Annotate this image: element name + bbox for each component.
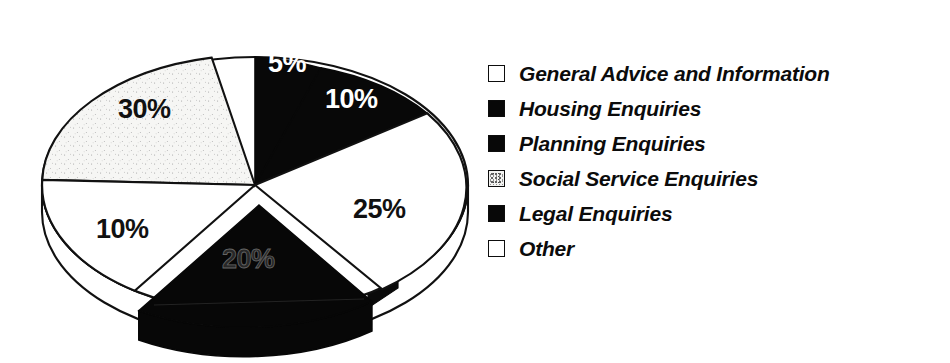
legend-item-label: Social Service Enquiries	[519, 167, 758, 191]
legend-item-label: Other	[519, 237, 574, 261]
slice-label-legal: 20%	[222, 244, 275, 274]
slice-label-other: 10%	[96, 214, 149, 244]
legend-item-social-service[interactable]: Social Service Enquiries	[488, 161, 948, 196]
legend-swatch-icon	[488, 240, 505, 257]
legend-swatch-icon	[488, 135, 505, 152]
slice-label-general-advice: 5%	[268, 48, 307, 78]
legend-item-other[interactable]: Other	[488, 231, 948, 266]
legend-item-housing[interactable]: Housing Enquiries	[488, 91, 948, 126]
legend-item-label: Housing Enquiries	[519, 97, 701, 121]
legend-item-label: General Advice and Information	[519, 62, 830, 86]
legend-item-legal[interactable]: Legal Enquiries	[488, 196, 948, 231]
legend-swatch-icon	[488, 100, 505, 117]
legend-item-label: Planning Enquiries	[519, 132, 706, 156]
legend-item-general-advice[interactable]: General Advice and Information	[488, 56, 948, 91]
pie-chart-svg: 5% 10% 25% 30% 20% 10%	[0, 0, 478, 363]
legend-swatch-icon	[488, 205, 505, 222]
legend-swatch-icon	[488, 65, 505, 82]
chart-legend: General Advice and Information Housing E…	[488, 56, 948, 266]
legend-item-label: Legal Enquiries	[519, 202, 672, 226]
pie-chart-canvas: 5% 10% 25% 30% 20% 10%	[0, 0, 478, 363]
slice-label-social-service: 30%	[118, 94, 171, 124]
slice-label-planning: 25%	[353, 194, 406, 224]
legend-swatch-icon	[488, 170, 505, 187]
slice-label-housing: 10%	[325, 84, 378, 114]
pie-chart-figure: 5% 10% 25% 30% 20% 10% General Advice an…	[0, 0, 950, 363]
legend-item-planning[interactable]: Planning Enquiries	[488, 126, 948, 161]
